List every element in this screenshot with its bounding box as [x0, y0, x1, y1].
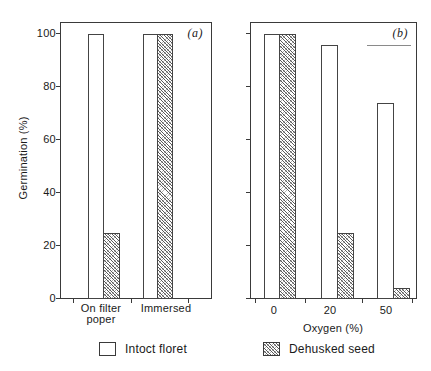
bar-a-intact-floret-immersed[interactable]: [143, 34, 158, 299]
y-tick-a-80: [56, 86, 61, 87]
x-tick-b-2: [362, 298, 363, 303]
y-tick-label-40: 40: [22, 187, 56, 197]
panel-b: (b): [250, 22, 417, 299]
x-tick-label-a-immersed: Immersed: [135, 303, 197, 314]
bar-a-dehusked-seed-immersed[interactable]: [157, 34, 173, 299]
panel-b-tag: (b): [393, 26, 409, 41]
legend-swatch-hatched-icon: [263, 342, 280, 356]
x-axis-label-oxygen: Oxygen (%): [268, 322, 398, 334]
bar-b-dehusked-seed-oxygen-0[interactable]: [279, 34, 296, 299]
panel-b-tag-rule: [367, 45, 411, 46]
legend-item-dehusked-seed[interactable]: Dehusked seed: [263, 342, 375, 356]
y-tick-b-100: [246, 33, 251, 34]
y-tick-b-80: [246, 86, 251, 87]
y-tick-label-0: 0: [22, 293, 56, 303]
bar-b-intact-floret-oxygen-50[interactable]: [377, 103, 394, 299]
y-tick-label-group: 0 20 40 60 80 100: [22, 0, 56, 371]
y-tick-b-20: [246, 245, 251, 246]
x-tick-b-1: [305, 298, 306, 303]
y-tick-a-60: [56, 139, 61, 140]
x-tick-b-0: [255, 298, 256, 303]
y-tick-label-20: 20: [22, 240, 56, 250]
x-tick-label-b-0: 0: [254, 305, 294, 316]
legend: Intoct floret Dehusked seed: [0, 338, 431, 362]
legend-item-intact-floret[interactable]: Intoct floret: [99, 342, 187, 356]
bar-b-intact-floret-oxygen-20[interactable]: [321, 45, 338, 299]
y-tick-b-60: [246, 139, 251, 140]
panel-a-frame: [60, 22, 212, 299]
figure-root: Germination (%) 0 20 40 60 80 100 (a) On…: [0, 0, 431, 371]
y-tick-a-0: [56, 298, 61, 299]
bar-a-dehusked-seed-on-filter-paper[interactable]: [103, 233, 120, 299]
y-tick-label-80: 80: [22, 81, 56, 91]
y-tick-label-100: 100: [22, 28, 56, 38]
y-tick-a-40: [56, 192, 61, 193]
x-tick-label-b-20: 20: [310, 305, 350, 316]
panel-a-tag: (a): [188, 26, 204, 41]
legend-label-dehusked-seed: Dehusked seed: [289, 342, 375, 356]
y-tick-label-60: 60: [22, 134, 56, 144]
bar-b-dehusked-seed-oxygen-20[interactable]: [337, 233, 354, 299]
legend-swatch-open-icon: [99, 342, 116, 356]
bar-b-dehusked-seed-oxygen-50[interactable]: [393, 288, 410, 299]
x-tick-label-b-50: 50: [366, 305, 406, 316]
legend-label-intact-floret: Intoct floret: [125, 342, 187, 356]
y-tick-a-20: [56, 245, 61, 246]
x-tick-label-a-on-filter-paper: On filter poper: [70, 303, 132, 325]
bar-a-intact-floret-on-filter-paper[interactable]: [88, 34, 104, 299]
panel-a: (a): [60, 22, 212, 299]
y-tick-b-40: [246, 192, 251, 193]
y-tick-a-100: [56, 33, 61, 34]
y-tick-b-0: [246, 298, 251, 299]
bar-b-intact-floret-oxygen-0[interactable]: [264, 34, 280, 299]
x-tick-b-3: [412, 298, 413, 303]
